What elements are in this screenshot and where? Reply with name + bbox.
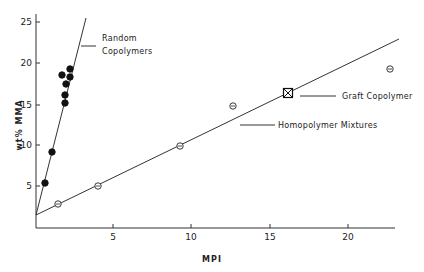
data-point — [55, 201, 61, 207]
data-point — [230, 103, 236, 109]
chart-canvas: 5 10 15 20 25 5 10 15 20 MPI wt% MMA — [0, 0, 424, 272]
data-point — [95, 183, 101, 189]
data-point — [62, 100, 68, 106]
x-tick-label: 5 — [110, 232, 116, 242]
annotation-random: Random — [102, 34, 137, 43]
y-tick-label: 25 — [21, 17, 32, 27]
annotation-graft-copolymer: Graft Copolymer — [342, 92, 413, 101]
data-point — [177, 143, 183, 149]
x-axis-title: MPI — [202, 255, 222, 264]
y-tick-label: 5 — [26, 181, 32, 191]
data-point — [63, 81, 69, 87]
data-point — [387, 66, 393, 72]
data-point — [42, 180, 48, 186]
x-tick-label: 10 — [185, 232, 197, 242]
data-point — [62, 92, 68, 98]
data-point — [49, 149, 55, 155]
data-point — [59, 72, 65, 78]
graft-copolymer-marker — [284, 89, 293, 98]
data-point — [67, 74, 73, 80]
x-tick-label: 20 — [342, 232, 354, 242]
data-point — [67, 66, 73, 72]
series-random-copolymers — [42, 66, 73, 186]
x-tick-label: 15 — [264, 232, 275, 242]
annotation-homopolymer-mixtures: Homopolymer Mixtures — [278, 121, 377, 130]
y-tick-label: 20 — [21, 58, 33, 68]
annotation-copolymers: Copolymers — [102, 47, 153, 56]
series-homopolymer-mixtures — [55, 66, 393, 207]
y-axis-title: wt% MMA — [15, 99, 24, 150]
x-ticks: 5 10 15 20 — [110, 224, 354, 242]
